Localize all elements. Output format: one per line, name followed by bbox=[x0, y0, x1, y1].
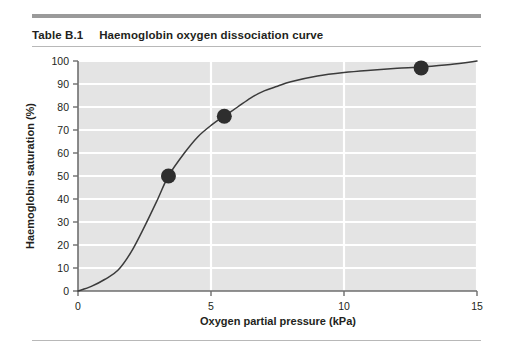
y-axis-title: Haemoglobin saturation (%) bbox=[24, 86, 36, 266]
y-tick-label: 90 bbox=[57, 78, 69, 90]
x-axis-title: Oxygen partial pressure (kPa) bbox=[78, 315, 478, 327]
dissociation-curve-chart: 0102030405060708090100051015 bbox=[0, 50, 513, 333]
x-tick-label: 5 bbox=[208, 300, 214, 312]
y-tick-label: 80 bbox=[57, 101, 69, 113]
table-number: Table B.1 bbox=[32, 29, 83, 41]
y-tick-label: 50 bbox=[57, 170, 69, 182]
y-tick-label: 0 bbox=[63, 285, 69, 297]
y-tick-label: 20 bbox=[57, 239, 69, 251]
data-point-marker[interactable] bbox=[217, 109, 232, 124]
table-caption: Table B.1 Haemoglobin oxygen dissociatio… bbox=[32, 24, 481, 46]
x-tick-label: 0 bbox=[75, 300, 81, 312]
chart-figure: 0102030405060708090100051015 Haemoglobin… bbox=[0, 50, 513, 333]
y-tick-label: 70 bbox=[57, 124, 69, 136]
page-title: Haemoglobin oxygen dissociation curve bbox=[99, 29, 323, 41]
y-tick-label: 30 bbox=[57, 216, 69, 228]
caption-divider bbox=[32, 46, 481, 47]
data-point-marker[interactable] bbox=[414, 60, 429, 75]
y-tick-label: 60 bbox=[57, 147, 69, 159]
top-divider bbox=[32, 14, 481, 18]
x-tick-label: 15 bbox=[471, 300, 483, 312]
y-tick-label: 100 bbox=[51, 55, 69, 67]
x-tick-label: 10 bbox=[338, 300, 350, 312]
y-tick-label: 10 bbox=[57, 262, 69, 274]
y-tick-label: 40 bbox=[57, 193, 69, 205]
data-point-marker[interactable] bbox=[161, 169, 176, 184]
figure-page: Table B.1 Haemoglobin oxygen dissociatio… bbox=[0, 0, 513, 357]
bottom-divider bbox=[32, 340, 481, 341]
